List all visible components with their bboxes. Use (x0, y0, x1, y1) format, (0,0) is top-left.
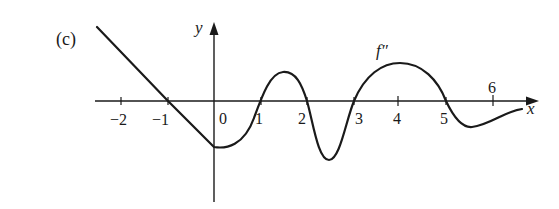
x-axis-label: x (526, 99, 535, 118)
tick-label-neg1: −1 (152, 111, 169, 128)
curve-label: f″ (376, 41, 389, 60)
tick-label-neg2: −2 (110, 111, 127, 128)
f-double-prime-graph: (c) −2 −1 0 1 2 3 4 5 6 x (0, 0, 559, 209)
y-axis-label: y (193, 18, 203, 37)
tick-label-6: 6 (488, 79, 496, 96)
tick-label-0: 0 (219, 110, 227, 127)
f-double-prime-curve (97, 27, 522, 160)
x-axis (95, 95, 539, 106)
y-axis-arrow-icon (210, 22, 219, 35)
tick-label-4: 4 (393, 110, 401, 127)
part-label: (c) (56, 29, 76, 50)
tick-label-3: 3 (355, 110, 363, 127)
y-axis (210, 22, 219, 202)
tick-label-5: 5 (440, 110, 448, 127)
tick-label-2: 2 (298, 110, 306, 127)
